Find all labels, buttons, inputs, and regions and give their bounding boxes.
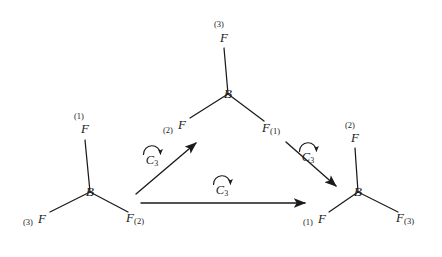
fluorine-index: (1) — [303, 217, 313, 227]
atom-fluorine-right-3: F(3) — [396, 211, 414, 226]
operation-order: 3 — [224, 189, 228, 198]
atom-fluorine-top-3: F — [220, 31, 228, 44]
atom-fluorine-left-2: F(2) — [126, 211, 144, 226]
atom-fluorine-top-1: F(1) — [262, 121, 280, 136]
fluorine-symbol: F — [396, 210, 404, 225]
op-left-to-right-label: C3 — [216, 184, 228, 198]
op-top-to-right-label: C3 — [302, 151, 314, 165]
operation-order: 3 — [310, 156, 314, 165]
bond-left-3 — [90, 192, 128, 212]
fluorine-index: (2) — [345, 120, 355, 130]
op-left-to-top-arrow — [136, 143, 196, 194]
fluorine-index: (3) — [404, 216, 414, 226]
atom-boron-left: B — [86, 185, 94, 199]
bond-top-3 — [228, 94, 264, 121]
bond-top-2 — [190, 94, 228, 118]
atom-fluorine-left-3: F — [38, 212, 46, 225]
fluorine-index: (1) — [74, 111, 84, 121]
fluorine-symbol: F — [126, 210, 134, 225]
op-left-to-top-label: C3 — [146, 154, 158, 168]
bond-right-3 — [358, 192, 398, 212]
atom-fluorine-top-2: F — [178, 118, 186, 131]
fluorine-index: (1) — [270, 126, 280, 136]
atom-boron-top: B — [224, 87, 232, 101]
fluorine-index: (2) — [163, 125, 173, 135]
fluorine-index: (3) — [214, 19, 224, 29]
atom-fluorine-right-2: F — [351, 131, 359, 144]
atom-boron-right: B — [354, 185, 362, 199]
atom-fluorine-left-1: F — [81, 122, 89, 135]
operation-order: 3 — [154, 159, 158, 168]
atom-fluorine-right-1: F — [318, 212, 326, 225]
rotation-arcs — [143, 143, 316, 185]
fluorine-index: (2) — [134, 216, 144, 226]
fluorine-symbol: F — [262, 120, 270, 135]
symmetry-diagram-canvas: B(1)F(3)FF(2)B(3)F(2)FF(1)B(2)F(1)FF(3)C… — [0, 0, 442, 257]
bond-left-2 — [50, 192, 90, 212]
fluorine-index: (3) — [23, 217, 33, 227]
